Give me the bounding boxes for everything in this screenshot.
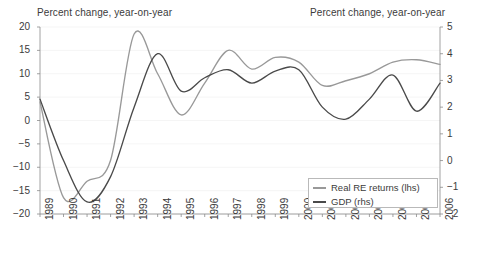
legend-item-gdp: GDP (rhs) — [313, 195, 433, 209]
x-axis-tick-label: 1992 — [115, 198, 126, 220]
left-axis-tick-label: −5 — [4, 138, 30, 149]
right-axis-tick-label: 3 — [447, 74, 471, 85]
series-line-real-re-returns — [40, 31, 440, 202]
left-axis-tick-label: 10 — [4, 68, 30, 79]
left-axis-tick-label: −20 — [4, 208, 30, 219]
right-axis-tick-label: 4 — [447, 48, 471, 59]
left-axis-tick-label: −10 — [4, 161, 30, 172]
x-axis-tick-label: 1995 — [185, 198, 196, 220]
legend-color-swatch-real-re-returns — [313, 187, 326, 189]
legend-item-real-re-returns: Real RE returns (lhs) — [313, 181, 433, 195]
right-axis-tick-label: −1 — [447, 181, 471, 192]
x-axis-tick-label: 1997 — [232, 198, 243, 220]
x-axis-tick-label: 1991 — [91, 198, 102, 220]
legend-color-swatch-gdp — [313, 201, 326, 203]
x-axis-tick-label: 1993 — [138, 198, 149, 220]
chart-legend: Real RE returns (lhs) GDP (rhs) — [308, 178, 438, 208]
x-axis-tick-label: 1996 — [209, 198, 220, 220]
x-axis-tick-label: 1999 — [279, 198, 290, 220]
right-axis-tick-label: 2 — [447, 101, 471, 112]
x-axis-tick-label: 1990 — [68, 198, 79, 220]
x-axis-tick-label: 1994 — [162, 198, 173, 220]
left-axis-tick-label: 20 — [4, 21, 30, 32]
x-axis-tick-label: 1989 — [44, 198, 55, 220]
left-axis-tick-label: −15 — [4, 185, 30, 196]
right-axis-tick-label: 1 — [447, 128, 471, 139]
left-axis-tick-label: 15 — [4, 44, 30, 55]
right-axis-tick-label: 5 — [447, 21, 471, 32]
chart-container: Percent change, year-on-year Percent cha… — [0, 0, 479, 261]
left-axis-ticks — [37, 27, 40, 214]
x-axis-tick-label: 2006 — [444, 198, 455, 220]
plot-area — [0, 0, 479, 261]
right-axis-tick-label: 0 — [447, 155, 471, 166]
legend-label-real-re-returns: Real RE returns (lhs) — [331, 182, 420, 194]
left-axis-tick-label: 5 — [4, 91, 30, 102]
legend-label-gdp: GDP (rhs) — [331, 196, 374, 208]
x-axis-tick-label: 1998 — [256, 198, 267, 220]
right-axis-ticks — [440, 27, 443, 214]
left-axis-tick-label: 0 — [4, 115, 30, 126]
